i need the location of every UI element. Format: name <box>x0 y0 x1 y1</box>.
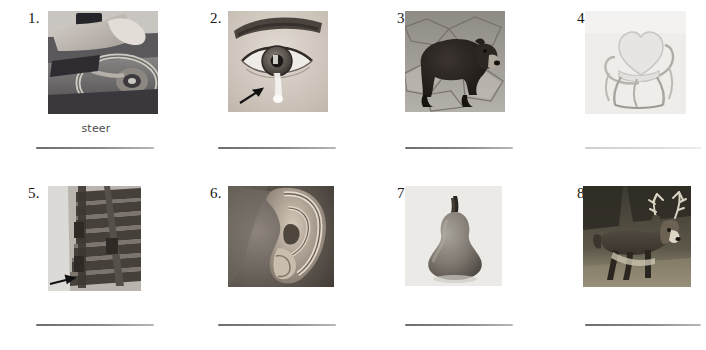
answer-line-3[interactable] <box>405 147 513 149</box>
answer-zone-2[interactable] <box>218 120 338 158</box>
answer-line-1[interactable] <box>36 147 154 149</box>
eye-with-tear-photo <box>228 11 328 112</box>
answer-line-4[interactable] <box>585 147 701 149</box>
pear-photo <box>405 186 502 286</box>
worksheet-item-3[interactable]: 3. <box>377 0 553 175</box>
answer-zone-8[interactable] <box>585 297 705 335</box>
worksheet-item-6[interactable]: 6. <box>190 175 366 350</box>
worksheet-row-2: 5. <box>0 175 706 350</box>
answer-zone-3[interactable] <box>405 120 525 158</box>
answer-line-5[interactable] <box>36 324 154 326</box>
stairs-photo <box>48 186 141 291</box>
item-number-6: 6. <box>210 186 222 201</box>
worksheet-item-7[interactable]: 7. <box>377 175 553 350</box>
answer-zone-5[interactable] <box>36 297 156 335</box>
worksheet-row-1: 1. <box>0 0 706 175</box>
answer-zone-6[interactable] <box>218 297 338 335</box>
worksheet-item-1[interactable]: 1. <box>8 0 184 175</box>
answer-zone-4[interactable] <box>585 120 705 158</box>
worksheet-item-2[interactable]: 2. <box>190 0 366 175</box>
item-number-2: 2. <box>210 11 222 26</box>
item-number-5: 5. <box>28 186 40 201</box>
answer-line-6[interactable] <box>218 324 336 326</box>
answer-line-2[interactable] <box>218 147 336 149</box>
chair-photo <box>585 11 686 114</box>
ear-photo <box>228 186 334 287</box>
bear-photo <box>405 11 505 112</box>
worksheet-item-8[interactable]: 8. <box>557 175 706 350</box>
answer-line-7[interactable] <box>405 324 513 326</box>
answer-zone-1[interactable]: steer <box>36 120 156 158</box>
worksheet-item-4[interactable]: 4. <box>557 0 706 175</box>
worksheet-page: 1. <box>0 0 706 350</box>
worksheet-item-5[interactable]: 5. <box>8 175 184 350</box>
answer-zone-7[interactable] <box>405 297 525 335</box>
deer-photo <box>583 186 691 287</box>
handwritten-answer-1: steer <box>36 122 156 135</box>
steering-wheel-photo <box>48 11 158 114</box>
item-number-1: 1. <box>28 11 40 26</box>
answer-line-8[interactable] <box>585 324 701 326</box>
